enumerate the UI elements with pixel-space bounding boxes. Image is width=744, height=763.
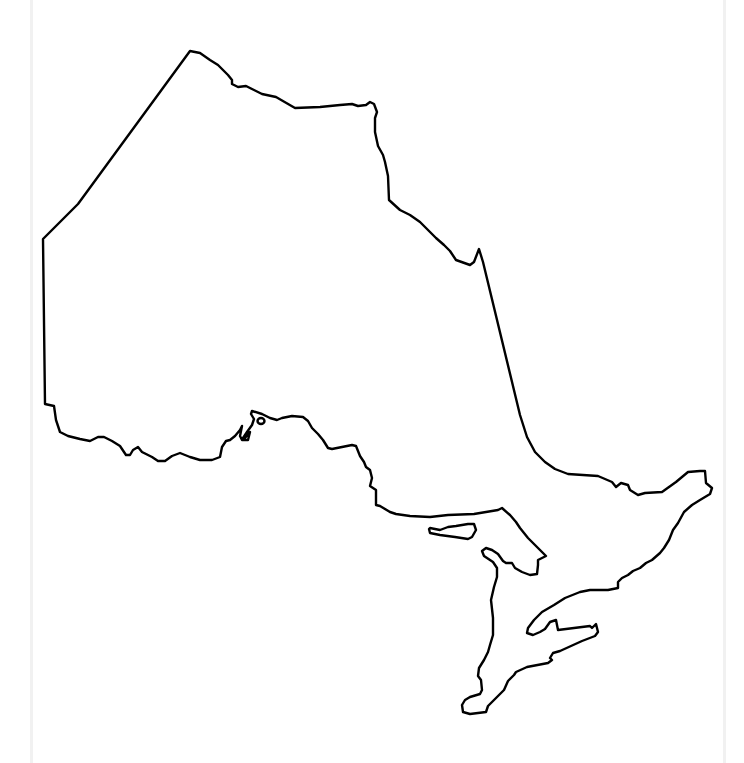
province-outline <box>43 51 712 714</box>
manitoulin-island <box>429 524 476 539</box>
ontario-outline-map <box>0 0 744 763</box>
lake-nipigon <box>258 418 265 424</box>
